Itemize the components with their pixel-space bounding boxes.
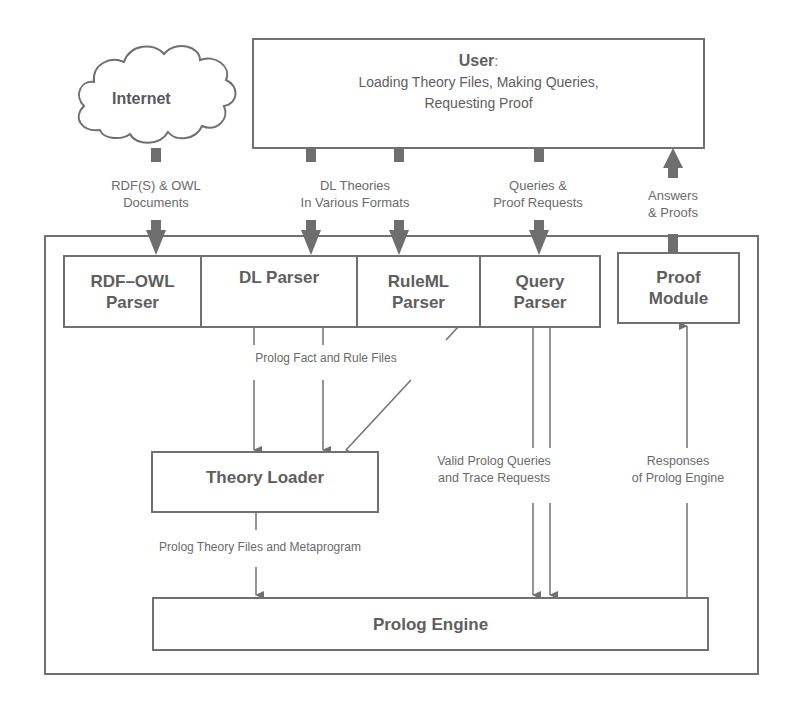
user-title-colon: : (494, 53, 498, 69)
thick-arrow-rdf (146, 220, 166, 255)
flow-label-answers-proofs: Answers& Proofs (633, 187, 713, 221)
query-parser-box: Query Parser (479, 255, 601, 328)
rdf-owl-parser-box: RDF–OWL Parser (63, 255, 202, 328)
user-line-1: Loading Theory Files, Making Queries, (358, 72, 598, 93)
flow-label-queries-proof-requests: Queries &Proof Requests (478, 177, 598, 211)
flow-label-rdf-owl-documents: RDF(S) & OWLDocuments (86, 177, 226, 211)
flow-label-theory-files-metaprogram: Prolog Theory Files and Metaprogram (110, 539, 410, 556)
flow-label-responses: Responsesof Prolog Engine (598, 453, 758, 487)
proof-module-box: Proof Module (617, 252, 740, 324)
internet-label: Internet (112, 90, 171, 108)
user-line-2: Requesting Proof (424, 93, 532, 114)
prolog-engine-box: Prolog Engine (152, 597, 709, 651)
ruleml-parser-box: RuleML Parser (356, 255, 481, 328)
dl-parser-box: DL Parser (200, 255, 358, 328)
user-box: User: Loading Theory Files, Making Queri… (252, 38, 705, 149)
flow-label-valid-prolog-queries: Valid Prolog Queriesand Trace Requests (414, 453, 574, 487)
flow-label-dl-theories: DL TheoriesIn Various Formats (280, 177, 430, 211)
theory-loader-box: Theory Loader (151, 451, 379, 513)
user-title: User (459, 52, 495, 69)
flow-label-fact-rule-files: Prolog Fact and Rule Files (226, 350, 426, 367)
